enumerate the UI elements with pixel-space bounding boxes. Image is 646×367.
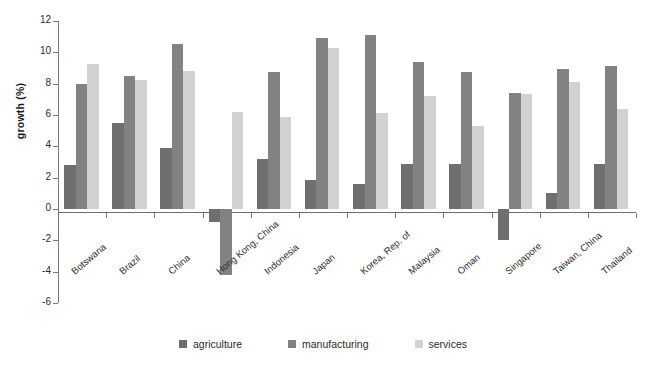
bar-manufacturing [605,66,617,209]
bar-agriculture [546,193,558,209]
bar-services [232,112,244,209]
x-tick-mark [299,213,300,218]
bar-services [280,117,292,209]
y-tick-mark [53,178,58,179]
bar-manufacturing [509,93,521,209]
bar-agriculture [112,123,124,209]
y-axis-line [58,21,59,303]
bar-agriculture [498,209,510,240]
y-tick-mark [53,21,58,22]
y-tick-label: 12 [40,14,51,25]
bar-services [376,113,388,209]
bar-services [521,94,533,209]
y-tick-label: 8 [45,77,51,88]
y-tick-label: -6 [42,296,51,307]
y-tick-label: 10 [40,45,51,56]
bar-agriculture [160,148,172,209]
bar-agriculture [353,184,365,209]
y-tick-mark [53,303,58,304]
bar-manufacturing [557,69,569,209]
y-tick-mark [53,52,58,53]
legend-label: agriculture [193,338,242,350]
bar-agriculture [305,180,317,209]
chart-legend: agriculturemanufacturingservices [0,338,646,350]
y-tick-mark [53,115,58,116]
x-tick-mark [58,213,59,218]
bar-chart-figure: growth (%) 121086420-2-4-6 BotswanaBrazi… [0,0,646,367]
legend-label: services [429,338,468,350]
bar-services [569,82,581,209]
legend-swatch-icon [288,340,296,348]
legend-swatch-icon [179,340,187,348]
y-tick-mark [53,240,58,241]
bar-services [472,126,484,209]
bar-services [328,48,340,209]
bar-manufacturing [76,84,88,209]
legend-item[interactable]: services [415,338,468,350]
bar-agriculture [257,159,269,209]
x-tick-mark [588,213,589,218]
bar-services [87,64,99,209]
x-tick-mark [106,213,107,218]
bar-services [135,80,147,209]
y-tick-mark [53,84,58,85]
bar-manufacturing [461,72,473,209]
y-tick-mark [53,209,58,210]
bar-agriculture [594,164,606,209]
x-tick-mark [636,213,637,218]
x-tick-mark [540,213,541,218]
y-tick-label: -2 [42,233,51,244]
legend-label: manufacturing [302,338,369,350]
bar-agriculture [64,165,76,209]
bar-agriculture [449,164,461,209]
y-axis-label: growth (%) [14,51,26,171]
y-tick-mark [53,272,58,273]
x-tick-mark [347,213,348,218]
bar-agriculture [401,164,413,209]
y-tick-label: 4 [45,139,51,150]
bar-agriculture [209,209,221,222]
plot-area: 121086420-2-4-6 [58,21,636,303]
x-tick-mark [251,213,252,218]
legend-item[interactable]: agriculture [179,338,242,350]
legend-swatch-icon [415,340,423,348]
bar-services [183,71,195,209]
bar-services [424,96,436,209]
x-tick-mark [492,213,493,218]
bar-manufacturing [124,76,136,209]
x-tick-mark [395,213,396,218]
y-tick-label: 0 [45,202,51,213]
x-tick-mark [154,213,155,218]
bar-manufacturing [316,38,328,209]
bar-manufacturing [268,72,280,209]
bar-services [617,109,629,209]
y-tick-label: -4 [42,265,51,276]
x-tick-mark [443,213,444,218]
bar-manufacturing [413,62,425,209]
legend-item[interactable]: manufacturing [288,338,369,350]
bar-manufacturing [172,44,184,209]
y-tick-label: 2 [45,171,51,182]
y-tick-label: 6 [45,108,51,119]
x-tick-mark [203,213,204,218]
y-tick-mark [53,146,58,147]
bar-manufacturing [365,35,377,209]
